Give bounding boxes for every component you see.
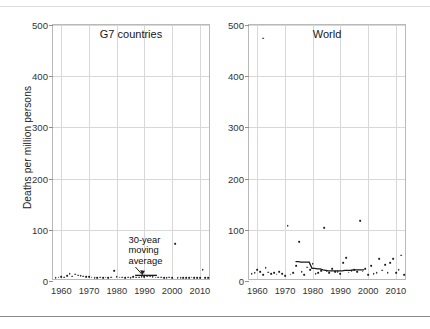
x-tick-label: 1980 [106, 286, 127, 296]
x-tick-label: 2000 [358, 286, 379, 296]
bottom-divider [0, 316, 430, 317]
x-tick-label: 2010 [386, 286, 407, 296]
y-tick-mark [49, 281, 53, 282]
x-tick-label: 1990 [330, 286, 351, 296]
y-tick-label: 0 [43, 276, 48, 287]
top-divider [0, 6, 430, 7]
panel-world: 0100200300400500196019701980199020002010… [248, 24, 406, 280]
y-tick-label: 100 [32, 224, 48, 235]
moving-average-line [249, 25, 405, 279]
y-tick-label: 200 [32, 173, 48, 184]
y-tick-label: 500 [228, 20, 244, 31]
x-tick-label: 1970 [275, 286, 296, 296]
y-tick-label: 500 [32, 20, 48, 31]
figure-root: Deaths per million persons 0100200300400… [0, 0, 430, 329]
x-tick-label: 1960 [247, 286, 268, 296]
plot-area-g7: 0100200300400500196019701980199020002010… [52, 24, 210, 280]
x-tick-label: 1980 [302, 286, 323, 296]
x-tick-label: 2000 [162, 286, 183, 296]
plot-area-world: 0100200300400500196019701980199020002010 [248, 24, 406, 280]
y-tick-label: 200 [228, 173, 244, 184]
y-tick-label: 0 [239, 276, 244, 287]
y-tick-label: 300 [32, 122, 48, 133]
y-tick-mark [245, 281, 249, 282]
panel-g7-countries: 0100200300400500196019701980199020002010… [52, 24, 210, 280]
y-tick-label: 300 [228, 122, 244, 133]
x-tick-label: 1960 [51, 286, 72, 296]
panel-title-world: World [248, 28, 406, 40]
annotation-arrow-icon [53, 25, 211, 281]
x-tick-label: 2010 [190, 286, 211, 296]
y-axis-label: Deaths per million persons [22, 33, 33, 263]
x-tick-label: 1990 [134, 286, 155, 296]
panel-title-g7: G7 countries [52, 28, 210, 40]
y-tick-label: 400 [228, 71, 244, 82]
y-tick-label: 100 [228, 224, 244, 235]
x-tick-label: 1970 [79, 286, 100, 296]
y-tick-label: 400 [32, 71, 48, 82]
